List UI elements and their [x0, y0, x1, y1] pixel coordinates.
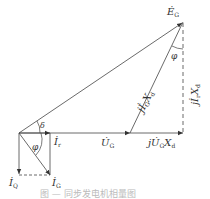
label-jugxd: jU̇GXd — [146, 137, 175, 149]
label-jirxd: jİrXd — [189, 84, 201, 107]
figure-caption: 图 — 同步发电机相量图 — [40, 188, 136, 199]
label-phi-top: φ — [171, 51, 178, 61]
jigxd-vector — [130, 22, 183, 133]
label-jigxd: jİGXd — [134, 88, 156, 116]
label-iq: İQ — [8, 177, 18, 189]
label-ir: İr — [53, 136, 61, 148]
label-ig: İG — [51, 177, 61, 189]
ig-vector — [19, 133, 50, 175]
phasor-diagram: ĖG φ jİGXd jİrXd δ φ İr U̇G jU̇GXd İQ İG… — [0, 0, 210, 199]
label-ug: U̇G — [101, 137, 114, 149]
label-phi-bottom: φ — [32, 142, 39, 152]
phi-top-arc — [172, 46, 183, 49]
label-eg: ĖG — [166, 6, 179, 18]
label-delta: δ — [40, 121, 45, 130]
eg-vector — [19, 23, 182, 133]
